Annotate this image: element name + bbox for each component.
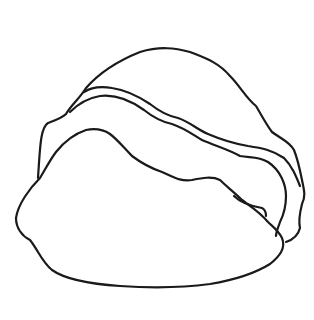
rock-ridge-line-lower: [70, 96, 286, 236]
rock-side-crack: [234, 196, 266, 216]
rock-top-outline: [38, 48, 304, 242]
rock-ridge-line-upper: [84, 87, 300, 186]
rock-front-face: [16, 129, 283, 287]
rock-drawing: [0, 0, 314, 320]
